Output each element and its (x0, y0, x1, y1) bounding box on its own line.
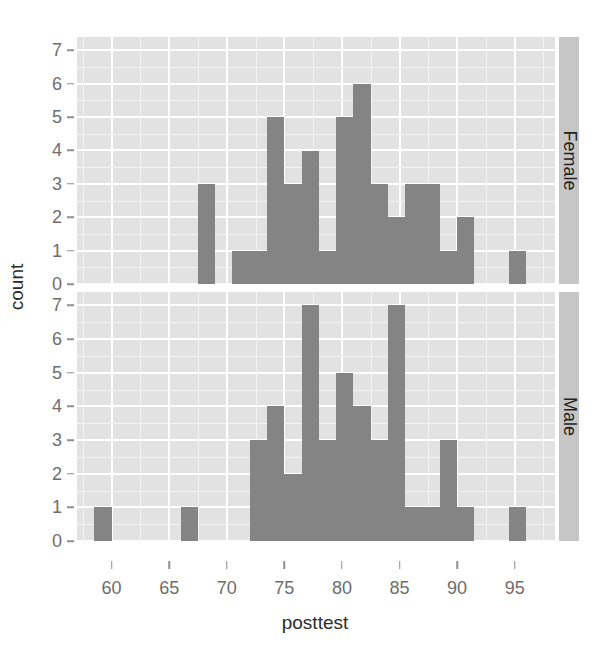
y-tick-mark (67, 473, 74, 475)
histogram-bar (267, 406, 284, 541)
y-tick-label: 4 (28, 141, 62, 159)
histogram-bar (302, 151, 319, 285)
gridline-major-v (111, 37, 113, 284)
histogram-bar (250, 440, 267, 541)
y-tick-mark (67, 150, 74, 152)
x-tick-mark (341, 561, 343, 569)
x-tick-mark (284, 561, 286, 569)
facet-strip-male: Male (559, 292, 579, 541)
gridline-minor-v (428, 292, 429, 541)
y-tick-label: 6 (28, 75, 62, 93)
panel-female (77, 37, 555, 284)
panel-male (77, 292, 555, 541)
histogram-bar (457, 217, 474, 284)
y-tick-mark (67, 183, 74, 185)
histogram-bar (388, 305, 405, 541)
histogram-bar (371, 184, 388, 284)
y-tick-mark (67, 439, 74, 441)
gridline-minor-v (543, 292, 544, 541)
y-tick-mark (67, 250, 74, 252)
x-tick-label: 75 (274, 578, 294, 599)
y-tick-mark (67, 338, 74, 340)
gridline-minor-v (83, 292, 84, 541)
y-tick-label: 0 (28, 532, 62, 550)
y-tick-label: 1 (28, 498, 62, 516)
x-tick-mark (514, 561, 516, 569)
histogram-bar (198, 184, 215, 284)
gridline-minor-v (543, 37, 544, 284)
histogram-bar (509, 251, 526, 284)
y-tick-mark (67, 406, 74, 408)
gridline-major-v (168, 292, 170, 541)
gridline-major-v (168, 37, 170, 284)
gridline-minor-v (140, 292, 141, 541)
x-tick-label: 90 (447, 578, 467, 599)
gridline-minor-h (77, 134, 555, 135)
histogram-bar (181, 507, 198, 541)
histogram-bar (353, 406, 370, 541)
x-tick-mark (111, 561, 113, 569)
y-tick-label: 5 (28, 364, 62, 382)
histogram-bar (302, 305, 319, 541)
x-tick-label: 70 (217, 578, 237, 599)
y-tick-label: 3 (28, 175, 62, 193)
y-tick-mark (67, 83, 74, 85)
histogram-bar (250, 251, 267, 284)
gridline-major-h (77, 83, 555, 85)
y-tick-mark (67, 116, 74, 118)
gridline-minor-v (198, 292, 199, 541)
histogram-bar (405, 184, 422, 284)
x-tick-mark (226, 561, 228, 569)
gridline-major-h (77, 116, 555, 118)
y-tick-label: 4 (28, 397, 62, 415)
y-tick-mark (67, 540, 74, 542)
histogram-bar (371, 440, 388, 541)
histogram-bar (284, 184, 301, 284)
gridline-major-v (514, 292, 516, 541)
gridline-minor-v (486, 292, 487, 541)
histogram-bar (353, 84, 370, 284)
histogram-bar (267, 117, 284, 284)
y-tick-mark (67, 372, 74, 374)
x-tick-label: 80 (332, 578, 352, 599)
gridline-major-v (111, 292, 113, 541)
y-tick-label: 7 (28, 296, 62, 314)
chart-canvas: count 01234567 01234567 Female Male 6065… (0, 0, 610, 654)
gridline-minor-h (77, 100, 555, 101)
gridline-major-v (226, 37, 228, 284)
y-tick-label: 3 (28, 431, 62, 449)
x-tick-mark (456, 561, 458, 569)
histogram-bar (336, 117, 353, 284)
histogram-bar (405, 507, 422, 541)
histogram-bar (232, 251, 249, 284)
y-axis-male: 01234567 (0, 292, 74, 541)
x-axis-title: posttest (70, 612, 560, 634)
facet-strip-female: Female (559, 37, 579, 284)
histogram-bar (457, 507, 474, 541)
histogram-bar (440, 251, 457, 284)
gridline-major-v (514, 37, 516, 284)
y-tick-label: 7 (28, 41, 62, 59)
x-tick-label: 60 (102, 578, 122, 599)
y-tick-label: 0 (28, 275, 62, 293)
x-tick-label: 95 (505, 578, 525, 599)
histogram-bar (388, 217, 405, 284)
x-tick-mark (168, 561, 170, 569)
gridline-major-v (226, 292, 228, 541)
y-tick-mark (67, 305, 74, 307)
histogram-bar (423, 507, 440, 541)
y-tick-label: 5 (28, 108, 62, 126)
gridline-minor-v (140, 37, 141, 284)
gridline-minor-v (256, 37, 257, 284)
histogram-bar (336, 373, 353, 541)
y-tick-label: 2 (28, 208, 62, 226)
y-tick-mark (67, 50, 74, 52)
y-tick-label: 1 (28, 242, 62, 260)
gridline-minor-h (77, 67, 555, 68)
histogram-bar (319, 440, 336, 541)
gridline-major-h (77, 49, 555, 51)
y-tick-label: 6 (28, 330, 62, 348)
histogram-bar (284, 474, 301, 541)
y-axis-female: 01234567 (0, 37, 74, 284)
y-tick-mark (67, 507, 74, 509)
